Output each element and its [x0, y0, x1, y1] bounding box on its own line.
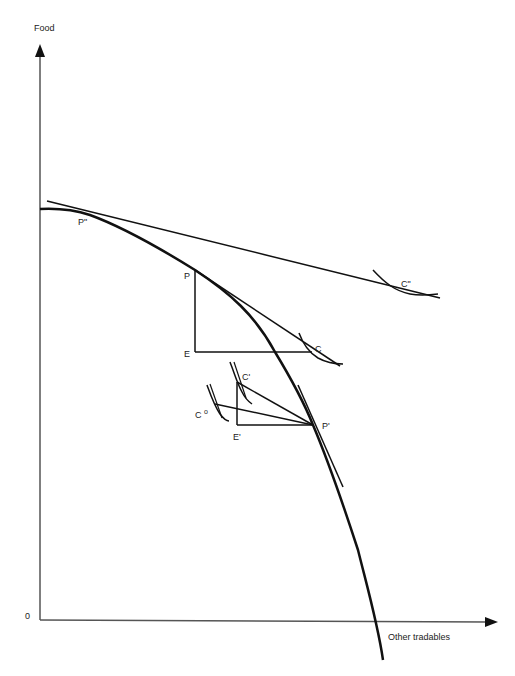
- x-axis-label: Other tradables: [388, 633, 450, 642]
- point-label-c-zero: C o: [195, 408, 208, 420]
- point-label-e: E: [184, 350, 190, 359]
- point-label-p-prime: P': [322, 422, 330, 431]
- point-label-p: P: [184, 272, 190, 281]
- c-zero-superscript: o: [204, 408, 208, 415]
- tangent-c-zero: [210, 384, 222, 418]
- price-line-c-zero: [215, 404, 313, 425]
- indifference-curve-c-zero: [207, 385, 229, 421]
- x-axis-arrow-icon: [485, 617, 498, 627]
- price-line-c-prime: [237, 382, 313, 425]
- point-label-c-prime: C': [242, 373, 250, 382]
- origin-label: 0: [25, 612, 30, 621]
- diagram-canvas: [0, 0, 515, 676]
- y-axis-arrow-icon: [35, 44, 45, 57]
- point-label-c-double-prime: C": [401, 280, 411, 289]
- x-axis: [40, 620, 488, 622]
- ppf-curve: [40, 209, 383, 660]
- point-label-e-prime: E': [233, 433, 241, 442]
- c-zero-base: C: [195, 410, 202, 420]
- price-line-p-double-prime: [47, 201, 440, 298]
- point-label-p-double-prime: P": [78, 218, 87, 227]
- y-axis-label: Food: [34, 24, 55, 33]
- point-label-c: C: [315, 345, 322, 354]
- tangent-p-prime: [298, 385, 343, 487]
